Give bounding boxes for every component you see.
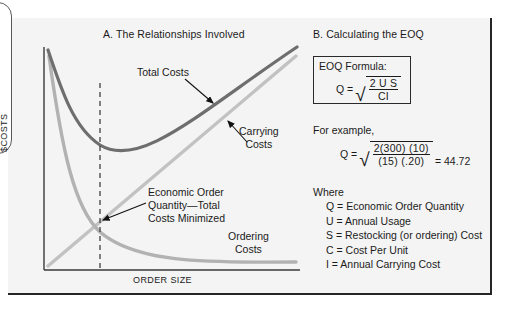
ordering-costs-label-line1: Ordering xyxy=(228,230,269,242)
example-radical-group: √ 2(300) (10) (15) (.20) xyxy=(359,141,433,167)
formula-radical-group: √ 2 U S CI xyxy=(355,76,401,102)
radical-icon: √ xyxy=(355,85,365,104)
where-item-i: I = Annual Carrying Cost xyxy=(313,257,482,271)
example-result: = 44.72 xyxy=(435,155,470,167)
where-heading: Where xyxy=(313,185,482,199)
total-costs-label: Total Costs xyxy=(137,66,189,79)
where-item-c: C = Cost Per Unit xyxy=(313,243,482,257)
ordering-costs-label-line2: Costs xyxy=(228,243,269,256)
ordering-costs-label: Ordering Costs xyxy=(228,230,269,255)
carrying-costs-label-line1: Carrying xyxy=(239,125,279,137)
formula-lhs: Q = xyxy=(336,83,353,95)
carrying-costs-label-line2: Costs xyxy=(239,138,279,151)
eoq-callout-label: Economic Order Quantity—Total Costs Mini… xyxy=(148,186,240,225)
example-numerator: 2(300) (10) xyxy=(373,142,430,154)
eoq-formula-box-title: EOQ Formula: xyxy=(319,60,387,72)
eoq-formula-expression: Q = √ 2 U S CI xyxy=(336,76,401,102)
carrying-costs-label: Carrying Costs xyxy=(239,125,279,150)
eoq-arrow xyxy=(103,203,146,220)
radical-icon: √ xyxy=(359,150,369,169)
example-denominator: (15) (.20) xyxy=(373,154,430,167)
example-fraction: 2(300) (10) (15) (.20) xyxy=(370,141,433,167)
panel-a-title: A. The Relationships Involved xyxy=(103,28,245,40)
x-axis-label: ORDER SIZE xyxy=(133,275,192,285)
formula-denominator: CI xyxy=(369,89,399,102)
panel-b-title: B. Calculating the EOQ xyxy=(313,28,424,40)
formula-fraction: 2 U S CI xyxy=(366,76,402,102)
for-example-label: For example, xyxy=(313,124,374,136)
where-item-u: U = Annual Usage xyxy=(313,214,482,228)
where-item-q: Q = Economic Order Quantity xyxy=(313,199,482,213)
example-lhs: Q = xyxy=(340,148,357,160)
eoq-example-expression: Q = √ 2(300) (10) (15) (.20) = 44.72 xyxy=(340,141,470,167)
y-axis-label: $COSTS xyxy=(0,114,9,152)
figure-root: A. The Relationships Involved $COSTS ORD… xyxy=(0,0,512,318)
formula-numerator: 2 U S xyxy=(369,77,399,89)
where-item-s: S = Restocking (or ordering) Cost xyxy=(313,228,482,242)
where-legend: Where Q = Economic Order Quantity U = An… xyxy=(313,185,482,271)
total-costs-arrow xyxy=(185,79,213,103)
